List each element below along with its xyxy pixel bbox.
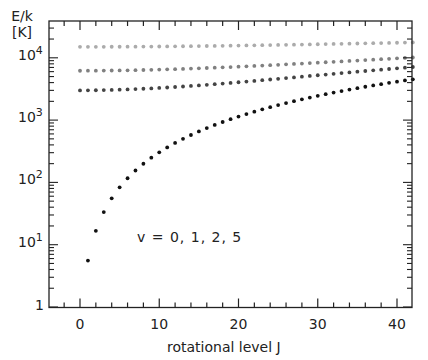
data-point [94, 69, 98, 73]
data-point [102, 210, 106, 214]
axes [49, 21, 412, 308]
data-point [371, 68, 375, 72]
data-point [189, 44, 193, 48]
data-point [126, 176, 130, 180]
data-point [142, 45, 146, 49]
data-point [245, 80, 249, 84]
data-point [332, 91, 336, 95]
data-point [229, 117, 233, 121]
data-point [181, 44, 185, 48]
data-point [149, 156, 153, 160]
series-annotation: v = 0, 1, 2, 5 [137, 229, 242, 245]
data-point [260, 78, 264, 82]
data-point [316, 73, 320, 77]
y-axis-label-line1: E/k [2, 8, 42, 24]
data-point [94, 88, 98, 92]
data-point [324, 42, 328, 46]
data-point [395, 66, 399, 70]
data-point [340, 60, 344, 64]
data-point [308, 96, 312, 100]
data-point [118, 185, 122, 189]
data-point [86, 69, 90, 73]
data-point [134, 68, 138, 72]
data-point [181, 67, 185, 71]
data-point [355, 59, 359, 63]
y-tick-label: 1 [35, 297, 44, 313]
data-point [205, 66, 209, 70]
data-point [276, 103, 280, 107]
data-point [371, 41, 375, 45]
data-point [78, 88, 82, 92]
data-point [379, 41, 383, 45]
data-point [134, 169, 138, 173]
data-point [173, 67, 177, 71]
data-point [157, 45, 161, 49]
data-point [165, 67, 169, 71]
data-point [118, 69, 122, 73]
data-point [237, 80, 241, 84]
data-point [181, 137, 185, 141]
data-point [363, 58, 367, 62]
data-point [181, 85, 185, 89]
data-point [324, 92, 328, 96]
data-point [110, 196, 114, 200]
data-point [221, 65, 225, 69]
data-point [284, 62, 288, 66]
data-point [324, 73, 328, 77]
data-point [213, 123, 217, 127]
data-point [355, 70, 359, 74]
data-point [276, 77, 280, 81]
data-point [300, 97, 304, 101]
data-point [340, 42, 344, 46]
data-point [268, 105, 272, 109]
data-point [300, 62, 304, 66]
data-point [276, 63, 280, 67]
data-point [173, 141, 177, 145]
energy-levels-chart [0, 0, 428, 360]
data-point [292, 99, 296, 103]
data-point [268, 63, 272, 67]
data-point [308, 43, 312, 47]
data-point [395, 41, 399, 45]
data-point [379, 57, 383, 61]
data-point [205, 126, 209, 130]
data-point [276, 43, 280, 47]
data-point [213, 82, 217, 86]
data-point [332, 60, 336, 64]
data-point [213, 66, 217, 70]
data-point [94, 45, 98, 49]
data-point [142, 162, 146, 166]
data-point [102, 45, 106, 49]
data-point [245, 44, 249, 48]
data-point [173, 85, 177, 89]
data-point [126, 88, 130, 92]
data-point [316, 94, 320, 98]
y-tick-label: 101 [18, 231, 43, 250]
data-point [292, 43, 296, 47]
data-point [308, 74, 312, 78]
data-point [78, 69, 82, 73]
x-axis-label: rotational level J [167, 339, 281, 355]
data-point [348, 42, 352, 46]
data-point [355, 42, 359, 46]
data-point [252, 64, 256, 68]
data-point [292, 62, 296, 66]
data-point [403, 66, 407, 70]
data-point [324, 60, 328, 64]
data-point [340, 89, 344, 93]
data-point [205, 44, 209, 48]
data-point [252, 79, 256, 83]
data-point [379, 82, 383, 86]
y-axis-label: E/k [K] [2, 8, 42, 40]
data-point [292, 75, 296, 79]
data-point [94, 229, 98, 233]
data-point [308, 61, 312, 65]
data-point [260, 107, 264, 111]
data-point [237, 44, 241, 48]
x-tick-label: 30 [309, 316, 327, 332]
data-point [149, 45, 153, 49]
data-point [157, 150, 161, 154]
data-point [403, 41, 407, 45]
x-tick-label: 0 [76, 316, 85, 332]
data-point [340, 71, 344, 75]
